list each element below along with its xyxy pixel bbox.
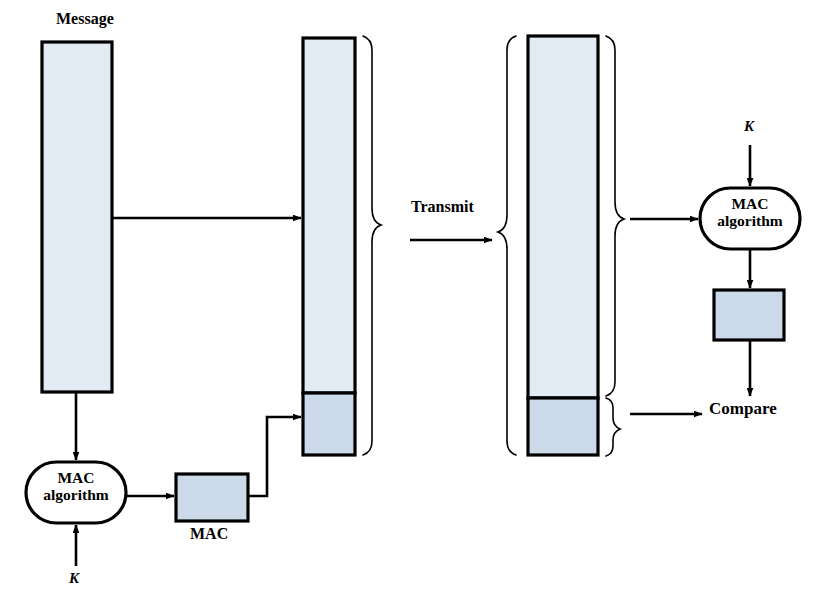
brace-received-open xyxy=(498,36,516,455)
key-label-left: K xyxy=(69,571,79,587)
mac-algorithm-right-label: MAC algorithm xyxy=(700,196,800,229)
brace-transmitted-close xyxy=(363,36,381,455)
computed-mac-box xyxy=(714,290,784,340)
mac-algorithm-right-line1: MAC xyxy=(700,196,800,213)
brace-received-message-close xyxy=(606,36,624,396)
compare-label: Compare xyxy=(709,400,777,418)
source-message-block xyxy=(42,42,112,392)
connector-mac-to-transmitted xyxy=(248,417,301,496)
message-label: Message xyxy=(56,11,114,28)
key-label-right: K xyxy=(744,119,754,135)
transmitted-block xyxy=(303,38,355,455)
mac-diagram: Message Transmit Compare MAC K K MAC alg… xyxy=(0,0,815,609)
mac-algorithm-left-label: MAC algorithm xyxy=(26,470,126,503)
mac-value-label: MAC xyxy=(190,526,228,543)
mac-algorithm-left-line1: MAC xyxy=(26,470,126,487)
transmit-label: Transmit xyxy=(411,199,474,216)
mac-algorithm-left-line2: algorithm xyxy=(26,487,126,504)
received-block xyxy=(528,36,598,455)
brace-received-mac-close xyxy=(606,398,620,456)
mac-algorithm-right-line2: algorithm xyxy=(700,213,800,230)
diagram-canvas xyxy=(0,0,815,609)
mac-value-box xyxy=(176,474,248,521)
